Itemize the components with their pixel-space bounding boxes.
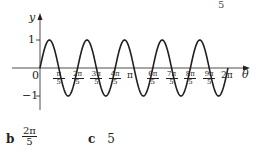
answer-c: c 5 bbox=[88, 132, 115, 146]
x-tick-label: 9π5 bbox=[203, 71, 215, 86]
x-tick-label: 4π5 bbox=[109, 71, 121, 86]
x-tick-label: 3π5 bbox=[90, 71, 102, 86]
y-axis-arrow-icon bbox=[38, 13, 43, 20]
x-tick-label: 2π5 bbox=[72, 71, 84, 86]
answer-c-label: c bbox=[88, 132, 95, 146]
x-tick-label: π5 bbox=[53, 71, 65, 86]
y-tick-minus-1: −1 bbox=[22, 90, 38, 101]
corner-fragment: 5 bbox=[218, 0, 224, 10]
origin-label: 0 bbox=[32, 70, 39, 81]
y-axis-label: y bbox=[29, 12, 35, 23]
x-tick-label: 8π5 bbox=[184, 71, 196, 86]
y-tick-1: 1 bbox=[28, 34, 35, 45]
answer-b-value: 2π 5 bbox=[22, 126, 37, 147]
x-tick-label: 2π bbox=[221, 71, 233, 80]
answer-c-value: 5 bbox=[107, 132, 115, 146]
theta-axis-label: θ bbox=[242, 69, 249, 80]
x-tick-label: π bbox=[127, 71, 133, 80]
x-tick-label: 7π5 bbox=[166, 71, 178, 86]
answer-b: b bbox=[6, 132, 14, 146]
answer-b-label: b bbox=[6, 132, 14, 146]
x-tick-label: 6π5 bbox=[147, 71, 159, 86]
